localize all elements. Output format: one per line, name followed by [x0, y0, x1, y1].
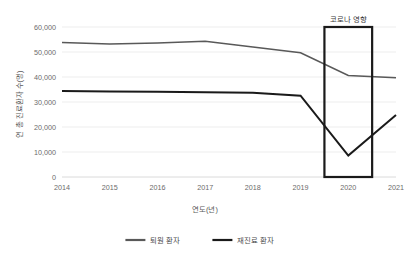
legend-label-0: 퇴원 환자	[150, 236, 180, 245]
chart-legend: 퇴원 환자재진료 환자	[125, 236, 274, 245]
gridlines	[62, 27, 396, 177]
x-tick-label-2017: 2017	[197, 183, 213, 192]
series-lines	[62, 41, 396, 155]
annotation-group: 코로나 영향	[324, 15, 372, 177]
x-axis-title: 연도(년)	[192, 205, 218, 214]
x-tick-label-2015: 2015	[102, 183, 118, 192]
x-tick-label-2020: 2020	[340, 183, 356, 192]
series-line-0	[62, 41, 396, 78]
x-tick-label-2018: 2018	[245, 183, 261, 192]
line-chart: 010,00020,00030,00040,00050,00060,000 20…	[0, 0, 406, 255]
x-axis-tick-labels: 20142015201620172018201920202021	[54, 183, 404, 192]
series-line-1	[62, 91, 396, 156]
x-tick-label-2016: 2016	[149, 183, 165, 192]
y-axis-tick-labels: 010,00020,00030,00040,00050,00060,000	[34, 23, 56, 182]
y-tick-label-50000: 50,000	[34, 48, 56, 57]
x-tick-label-2021: 2021	[388, 183, 404, 192]
y-tick-label-30000: 30,000	[34, 98, 56, 107]
chart-figure: 010,00020,00030,00040,00050,00060,000 20…	[0, 0, 406, 255]
x-tick-label-2019: 2019	[293, 183, 309, 192]
y-tick-label-0: 0	[52, 173, 56, 182]
y-tick-label-10000: 10,000	[34, 148, 56, 157]
legend-label-1: 재진료 환자	[237, 236, 274, 245]
y-axis-title: 연 총 진료환자 수(명)	[15, 70, 24, 137]
annotation-label-covid-impact: 코로나 영향	[330, 15, 367, 24]
x-tick-label-2014: 2014	[54, 183, 70, 192]
y-tick-label-60000: 60,000	[34, 23, 56, 32]
y-tick-label-20000: 20,000	[34, 123, 56, 132]
y-tick-label-40000: 40,000	[34, 73, 56, 82]
